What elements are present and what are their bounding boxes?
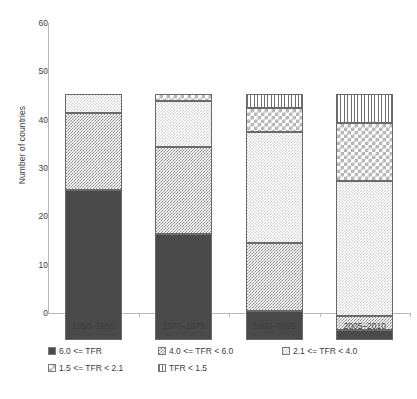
legend-item[interactable]: 4.0 <= TFR < 6.0: [158, 347, 233, 356]
legend-label: 1.5 <= TFR < 2.1: [59, 364, 123, 373]
bar-group[interactable]: [246, 27, 303, 340]
x-tick-label: 1990–1995: [253, 321, 296, 331]
bar-segment[interactable]: [336, 123, 393, 181]
y-tick-mark: [44, 168, 49, 169]
legend-item[interactable]: TFR < 1.5: [158, 364, 207, 373]
bar-group[interactable]: [65, 27, 122, 340]
y-tick-mark: [44, 313, 49, 314]
bar-group[interactable]: [336, 27, 393, 340]
bar-group[interactable]: [155, 27, 212, 340]
legend-swatch-icon: [158, 364, 166, 372]
chart-legend: 6.0 <= TFR4.0 <= TFR < 6.02.1 <= TFR < 4…: [0, 347, 417, 397]
bar-segment[interactable]: [65, 113, 122, 190]
bar-segment[interactable]: [246, 132, 303, 243]
y-tick-mark: [44, 216, 49, 217]
bar-segment[interactable]: [155, 147, 212, 234]
bar-segment[interactable]: [155, 94, 212, 101]
y-tick-mark: [44, 71, 49, 72]
y-tick-mark: [44, 23, 49, 24]
x-axis-tick-labels: 1950–19551970–19751990–19952005–2010: [0, 317, 417, 337]
legend-item[interactable]: 1.5 <= TFR < 2.1: [48, 364, 123, 373]
legend-label: 4.0 <= TFR < 6.0: [169, 347, 233, 356]
bars-layer: [0, 0, 417, 340]
legend-swatch-icon: [282, 347, 290, 355]
stacked-bar[interactable]: [65, 27, 122, 340]
x-tick-label: 2005–2010: [343, 321, 386, 331]
legend-swatch-icon: [48, 347, 56, 355]
legend-label: 2.1 <= TFR < 4.0: [293, 347, 357, 356]
bar-segment[interactable]: [336, 181, 393, 316]
bar-segment[interactable]: [246, 94, 303, 109]
x-tick-mark: [139, 313, 140, 317]
bar-segment[interactable]: [336, 94, 393, 123]
bar-segment[interactable]: [155, 101, 212, 147]
plot-area: Number of countries 0102030405060 1950–1…: [0, 0, 417, 340]
legend-swatch-icon: [48, 364, 56, 372]
x-tick-mark: [229, 313, 230, 317]
bar-segment[interactable]: [246, 108, 303, 132]
bar-segment[interactable]: [65, 94, 122, 113]
legend-item[interactable]: 6.0 <= TFR: [48, 347, 102, 356]
stacked-bar[interactable]: [336, 27, 393, 340]
x-tick-label: 1950–1955: [72, 321, 115, 331]
legend-swatch-icon: [158, 347, 166, 355]
y-tick-mark: [44, 120, 49, 121]
y-tick-mark: [44, 265, 49, 266]
legend-label: TFR < 1.5: [169, 364, 207, 373]
bar-segment[interactable]: [246, 243, 303, 311]
stacked-bar-chart: Number of countries 0102030405060 1950–1…: [0, 0, 417, 399]
x-tick-mark: [320, 313, 321, 317]
stacked-bar[interactable]: [246, 27, 303, 340]
legend-item[interactable]: 2.1 <= TFR < 4.0: [282, 347, 357, 356]
x-tick-label: 1970–1975: [162, 321, 205, 331]
stacked-bar[interactable]: [155, 27, 212, 340]
x-tick-mark: [410, 313, 411, 317]
legend-label: 6.0 <= TFR: [59, 347, 102, 356]
